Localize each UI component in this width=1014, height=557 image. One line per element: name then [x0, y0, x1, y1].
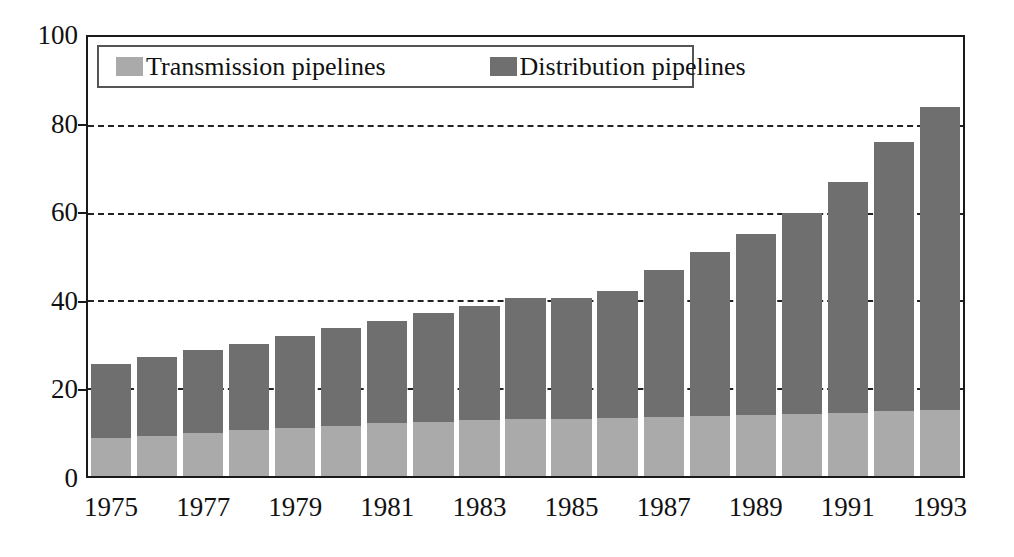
bar-segment-distribution-1988 — [690, 252, 730, 417]
bar-segment-transmission-1987 — [644, 417, 684, 476]
legend-label-transmission: Transmission pipelines — [146, 54, 386, 80]
bar-segment-transmission-1979 — [275, 428, 315, 476]
x-tick-label-1979: 1979 — [268, 492, 322, 523]
x-tick-label-1983: 1983 — [452, 492, 506, 523]
x-tick-label-1993: 1993 — [913, 492, 967, 523]
y-tick-label-40: 40 — [8, 287, 78, 314]
legend-entry-distribution: Distribution pipelines — [490, 54, 746, 80]
legend-entry-transmission: Transmission pipelines — [116, 54, 386, 80]
y-tick-label-60: 60 — [8, 199, 78, 226]
bar-segment-distribution-1985 — [551, 298, 591, 419]
bar-segment-transmission-1980 — [321, 426, 361, 476]
bars-layer — [88, 37, 963, 476]
bar-segment-distribution-1976 — [137, 357, 177, 435]
bar-1984 — [505, 298, 545, 476]
bar-1987 — [644, 270, 684, 476]
bar-segment-distribution-1986 — [597, 291, 637, 418]
bar-segment-distribution-1977 — [183, 350, 223, 433]
bar-1982 — [413, 313, 453, 476]
bar-1978 — [229, 344, 269, 476]
bar-segment-distribution-1984 — [505, 298, 545, 420]
bar-segment-distribution-1990 — [782, 213, 822, 415]
plot-area — [86, 35, 965, 478]
bar-1983 — [459, 306, 499, 476]
bar-1979 — [275, 336, 315, 476]
bar-segment-transmission-1983 — [459, 420, 499, 476]
legend-swatch-icon-transmission — [116, 57, 143, 76]
x-tick-label-1977: 1977 — [176, 492, 230, 523]
bar-segment-transmission-1985 — [551, 419, 591, 476]
bar-segment-transmission-1992 — [874, 411, 914, 476]
bar-segment-transmission-1978 — [229, 430, 269, 476]
bar-segment-distribution-1979 — [275, 336, 315, 427]
bar-segment-distribution-1980 — [321, 328, 361, 425]
x-tick-label-1985: 1985 — [545, 492, 599, 523]
bar-1980 — [321, 328, 361, 476]
bar-segment-distribution-1987 — [644, 270, 684, 418]
bar-segment-transmission-1988 — [690, 416, 730, 476]
legend-label-distribution: Distribution pipelines — [520, 54, 746, 80]
bar-segment-transmission-1977 — [183, 433, 223, 476]
bar-segment-distribution-1981 — [367, 321, 407, 424]
x-tick-label-1975: 1975 — [84, 492, 138, 523]
bar-segment-transmission-1984 — [505, 419, 545, 476]
bar-segment-distribution-1993 — [920, 107, 960, 410]
y-tick-label-100: 100 — [8, 22, 78, 49]
bar-segment-transmission-1981 — [367, 423, 407, 476]
x-tick-label-1991: 1991 — [821, 492, 875, 523]
chart-legend: Transmission pipelines Distribution pipe… — [97, 45, 694, 88]
bar-1989 — [736, 234, 776, 476]
y-tick-label-80: 80 — [8, 110, 78, 137]
bar-segment-distribution-1978 — [229, 344, 269, 430]
bar-1993 — [920, 107, 960, 476]
bar-1988 — [690, 252, 730, 476]
bar-1991 — [828, 182, 868, 476]
x-tick-label-1987: 1987 — [637, 492, 691, 523]
bar-1975 — [91, 364, 131, 476]
bar-segment-transmission-1976 — [137, 436, 177, 476]
bar-segment-distribution-1991 — [828, 182, 868, 413]
legend-swatch-icon-distribution — [490, 57, 517, 76]
bar-segment-transmission-1982 — [413, 422, 453, 476]
bar-segment-transmission-1986 — [597, 418, 637, 476]
bar-1986 — [597, 291, 637, 476]
y-tick-label-0: 0 — [8, 465, 78, 492]
bar-segment-distribution-1975 — [91, 364, 131, 438]
bar-1990 — [782, 213, 822, 476]
bar-segment-transmission-1975 — [91, 438, 131, 476]
bar-segment-transmission-1989 — [736, 415, 776, 476]
y-tick-label-20: 20 — [8, 376, 78, 403]
x-tick-label-1989: 1989 — [729, 492, 783, 523]
bar-segment-transmission-1991 — [828, 413, 868, 476]
bar-segment-distribution-1982 — [413, 313, 453, 421]
bar-1981 — [367, 321, 407, 476]
bar-segment-distribution-1992 — [874, 142, 914, 412]
bar-segment-distribution-1983 — [459, 306, 499, 421]
bar-1976 — [137, 357, 177, 476]
bar-segment-transmission-1990 — [782, 414, 822, 476]
y-axis: 100806040200 — [0, 35, 78, 478]
bar-segment-distribution-1989 — [736, 234, 776, 415]
bar-segment-transmission-1993 — [920, 410, 960, 476]
bar-1985 — [551, 298, 591, 476]
bar-1977 — [183, 350, 223, 476]
figure-root: 100806040200 197519771979198119831985198… — [0, 0, 1014, 557]
bar-1992 — [874, 142, 914, 476]
x-tick-label-1981: 1981 — [360, 492, 414, 523]
